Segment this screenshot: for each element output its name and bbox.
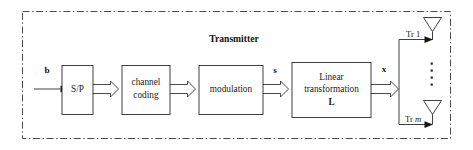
block-linear-line3: L — [328, 97, 334, 107]
transmitter-block-diagram: Transmitter b S/P channel coding modulat… — [0, 0, 473, 150]
connector-sp-to-channel — [93, 81, 119, 97]
antenna-tr1-label: Tr 1 — [406, 29, 420, 39]
block-linear-line1: Linear — [319, 72, 344, 82]
signal-label-b: b — [44, 65, 49, 75]
block-sp-label: S/P — [71, 84, 84, 94]
antenna-tr1 — [424, 18, 442, 41]
block-channel-coding-line2: coding — [133, 90, 159, 100]
antenna-trm-label: Tr m — [405, 114, 421, 124]
signal-label-s: s — [273, 65, 277, 75]
antenna-ellipsis — [431, 63, 433, 86]
block-modulation-label: modulation — [210, 84, 253, 94]
antenna-trm — [424, 101, 442, 125]
antenna-trm-prefix: Tr — [405, 114, 413, 124]
antenna-tr1-index: 1 — [416, 29, 420, 39]
connector-linear-to-bus — [371, 81, 399, 97]
diagram-title: Transmitter — [209, 33, 259, 44]
connector-channel-to-modulation — [170, 81, 196, 97]
block-linear-line2: transformation — [304, 84, 359, 94]
antenna-trm-index: m — [415, 114, 421, 124]
signal-label-x: x — [382, 64, 387, 74]
antenna-tr1-prefix: Tr — [406, 29, 414, 39]
connector-modulation-to-linear — [263, 81, 289, 97]
block-channel-coding-line1: channel — [132, 77, 161, 87]
figure-canvas: Transmitter b S/P channel coding modulat… — [0, 0, 473, 150]
